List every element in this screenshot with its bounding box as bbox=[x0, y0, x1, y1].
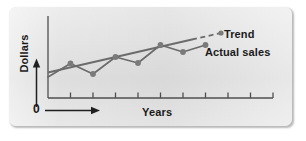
trend-line-dashed bbox=[192, 33, 221, 40]
trend-series-label: Trend bbox=[224, 29, 254, 40]
origin-label: 0 bbox=[33, 103, 40, 115]
chart-figure-panel: Dollars Years 0 Trend Actual sales bbox=[9, 7, 292, 126]
x-axis-ticks bbox=[71, 93, 274, 99]
actual-sales-series-label: Actual sales bbox=[205, 47, 270, 58]
x-axis-title: Years bbox=[142, 107, 172, 118]
trend-endpoint-marker bbox=[218, 30, 223, 35]
y-axis-title: Dollars bbox=[19, 31, 30, 77]
actual-sales-series bbox=[48, 42, 208, 77]
x-direction-arrow bbox=[45, 107, 100, 114]
y-direction-arrow bbox=[33, 59, 40, 108]
trend-line-solid bbox=[48, 40, 192, 73]
